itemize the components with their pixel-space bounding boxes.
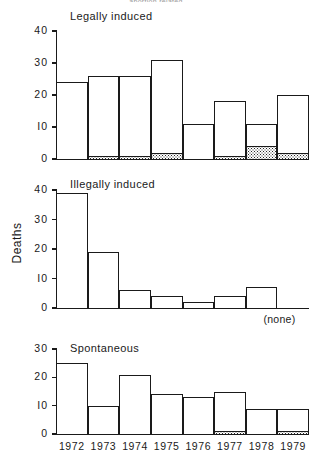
y-tick-label-legally-induced-10: I0 (4, 120, 48, 132)
y-tick-label-illegally-induced-20: 20 (4, 242, 48, 254)
bar-legally-induced-1972 (56, 82, 88, 160)
bar-spontaneous-1974 (119, 375, 151, 436)
bar-illegally-induced-1978 (246, 287, 278, 309)
bar-stipple-legally-induced-1979 (277, 153, 309, 161)
y-tick-legally-induced-40 (52, 30, 57, 31)
annotation-none: (none) (263, 313, 295, 325)
bar-illegally-induced-1974 (119, 290, 151, 309)
x-tick-label-1979: 1979 (277, 440, 309, 452)
bar-illegally-induced-1976 (183, 302, 215, 309)
y-tick-label-legally-induced-40: 40 (4, 24, 48, 36)
y-tick-label-illegally-induced-40: 40 (4, 183, 48, 195)
x-tick-label-1972: 1972 (56, 440, 88, 452)
x-tick-label-1977: 1977 (214, 440, 246, 452)
y-tick-label-spontaneous-10: I0 (4, 399, 48, 411)
bar-stipple-legally-induced-1974 (119, 156, 151, 161)
y-tick-label-illegally-induced-30: 30 (4, 213, 48, 225)
clipped-caption: abortion related (96, 0, 216, 2)
bar-spontaneous-1975 (151, 394, 183, 435)
bar-spontaneous-1976 (183, 397, 215, 435)
bar-stipple-spontaneous-1977 (214, 431, 246, 435)
bar-legally-induced-1973 (88, 76, 120, 161)
x-tick-label-1976: 1976 (183, 440, 215, 452)
bar-legally-induced-1977 (214, 101, 246, 160)
y-tick-label-spontaneous-20: 20 (4, 370, 48, 382)
y-tick-spontaneous-30 (52, 348, 57, 349)
bar-illegally-induced-1977 (214, 296, 246, 309)
bar-legally-induced-1974 (119, 76, 151, 161)
bar-legally-induced-1976 (183, 124, 215, 161)
bar-spontaneous-1978 (246, 409, 278, 436)
x-tick-label-1973: 1973 (88, 440, 120, 452)
panel-title-spontaneous: Spontaneous (70, 342, 139, 354)
bar-legally-induced-1975 (151, 60, 183, 161)
bar-illegally-induced-1972 (56, 193, 88, 309)
figure: abortion related Deaths Legally induced0… (0, 0, 317, 466)
y-tick-label-spontaneous-30: 30 (4, 342, 48, 354)
bar-stipple-legally-induced-1975 (151, 153, 183, 161)
y-tick-label-illegally-induced-0: 0 (4, 301, 48, 313)
bar-spontaneous-1972 (56, 363, 88, 435)
panel-title-legally-induced: Legally induced (70, 10, 152, 22)
y-tick-label-legally-induced-0: 0 (4, 152, 48, 164)
bar-stipple-legally-induced-1977 (214, 156, 246, 161)
panel-title-illegally-induced: Illegally induced (70, 178, 155, 190)
y-tick-label-spontaneous-0: 0 (4, 427, 48, 439)
bar-stipple-legally-induced-1973 (88, 156, 120, 161)
y-tick-label-illegally-induced-10: I0 (4, 272, 48, 284)
bar-illegally-induced-1973 (88, 252, 120, 309)
bar-illegally-induced-1975 (151, 296, 183, 309)
bar-spontaneous-1977 (214, 392, 246, 436)
x-tick-label-1975: 1975 (151, 440, 183, 452)
bar-legally-induced-1979 (277, 95, 309, 160)
bar-stipple-spontaneous-1979 (277, 431, 309, 435)
y-tick-label-legally-induced-20: 20 (4, 88, 48, 100)
y-tick-illegally-induced-40 (52, 189, 57, 190)
y-tick-label-legally-induced-30: 30 (4, 56, 48, 68)
y-tick-legally-induced-30 (52, 62, 57, 63)
bar-stipple-legally-induced-1978 (246, 146, 278, 160)
x-tick-label-1978: 1978 (246, 440, 278, 452)
bar-spontaneous-1973 (88, 406, 120, 436)
x-tick-label-1974: 1974 (119, 440, 151, 452)
